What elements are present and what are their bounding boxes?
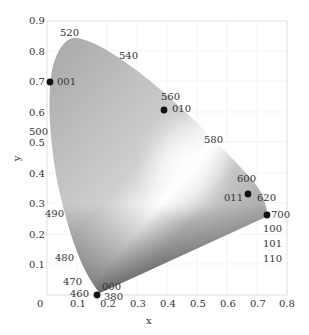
x-tick: 0.6: [220, 299, 236, 309]
y-tick: 0.2: [29, 230, 45, 240]
y-tick: 0.9: [29, 16, 45, 26]
wavelength-label: 520: [60, 28, 79, 38]
x-tick: 0.4: [160, 299, 176, 309]
y-tick: 0.3: [29, 199, 45, 209]
point-010: [161, 107, 168, 114]
point-label: 010: [172, 104, 191, 114]
x-tick: 0.8: [279, 299, 295, 309]
wavelength-label: 380: [104, 292, 123, 302]
wavelength-label: 580: [204, 135, 223, 145]
x-tick: 0.3: [130, 299, 146, 309]
wavelength-label: 700: [271, 210, 290, 220]
x-axis-title: x: [146, 315, 152, 326]
point-label: 101: [263, 239, 282, 249]
y-tick: 0.6: [29, 108, 45, 118]
x-tick: 0.7: [250, 299, 266, 309]
point-label: 110: [263, 254, 282, 264]
wavelength-label: 470: [63, 277, 82, 287]
y-tick: 0.1: [29, 260, 45, 270]
y-tick: 0.4: [29, 169, 45, 179]
wavelength-label: 460: [70, 289, 89, 299]
wavelength-label: 480: [55, 253, 74, 263]
x-tick: 0.5: [190, 299, 206, 309]
y-tick: 0.7: [29, 77, 45, 87]
point-001: [47, 79, 54, 86]
chromaticity-plot: [0, 0, 309, 335]
point-label: 001: [57, 77, 76, 87]
wavelength-label: 490: [45, 209, 64, 219]
point-label: 100: [263, 224, 282, 234]
x-tick: 0.1: [70, 299, 86, 309]
point-011: [245, 191, 252, 198]
wavelength-label: 500: [29, 127, 48, 137]
y-tick: 0.8: [29, 47, 45, 57]
wavelength-label: 560: [161, 92, 180, 102]
wavelength-label: 620: [257, 193, 276, 203]
point-label: 011: [224, 193, 243, 203]
point-100: [264, 212, 271, 219]
point-label: 000: [102, 282, 121, 292]
x-tick: 0: [37, 299, 43, 309]
y-axis-title: y: [11, 156, 22, 162]
y-tick: 0.5: [29, 138, 45, 148]
wavelength-label: 600: [237, 174, 256, 184]
wavelength-label: 540: [119, 51, 138, 61]
